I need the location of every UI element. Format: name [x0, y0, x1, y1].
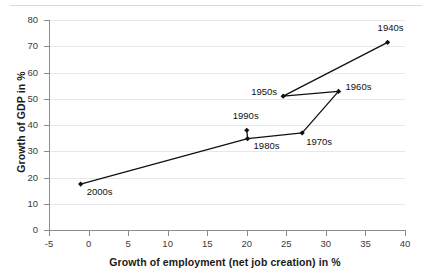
data-point-marker: [78, 181, 83, 186]
chart-figure: Growth of GDP in % Growth of employment …: [0, 0, 427, 277]
data-point-marker: [244, 128, 249, 133]
data-point-marker: [385, 40, 390, 45]
data-point-label: 2000s: [87, 186, 113, 197]
data-point-label: 1960s: [346, 81, 372, 92]
data-point-label: 1990s: [233, 110, 259, 121]
data-point-label: 1980s: [254, 140, 280, 151]
data-point-label: 1970s: [306, 136, 332, 147]
data-point-marker: [245, 136, 250, 141]
data-point-label: 1950s: [251, 86, 277, 97]
data-point-label: 1940s: [378, 22, 404, 33]
series-scatter-line: [0, 0, 427, 277]
data-point-marker: [281, 94, 286, 99]
